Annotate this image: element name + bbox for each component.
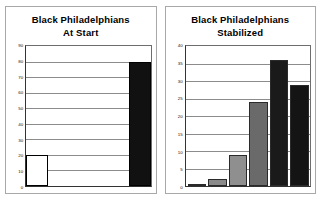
y-tick-label: 40 — [178, 43, 183, 48]
bar-slot — [269, 46, 290, 186]
y-tick-label: 70 — [18, 74, 23, 79]
chart-title-line2: Stabilized — [191, 27, 289, 40]
y-tick-label: 0 — [180, 185, 182, 190]
bars-at-start — [26, 46, 151, 186]
bar — [188, 184, 207, 186]
chart-title-line1: Black Philadelphians — [191, 14, 289, 27]
bar — [208, 179, 227, 186]
bar — [26, 155, 48, 186]
bar — [129, 62, 151, 186]
bar-slot — [228, 46, 249, 186]
bar-slot — [289, 46, 310, 186]
y-tick-label: 80 — [18, 58, 23, 63]
figure-root: Black Philadelphians At Start 0102030405… — [0, 0, 321, 202]
y-tick-label: 5 — [180, 167, 182, 172]
bar — [270, 60, 289, 186]
y-tick-label: 10 — [18, 169, 23, 174]
y-tick-label: 10 — [178, 149, 183, 154]
y-tick-label: 60 — [18, 90, 23, 95]
plot-wrap-at-start: 0102030405060708090 — [10, 45, 152, 187]
y-tick-label: 20 — [178, 114, 183, 119]
y-axis-stabilized: 0510152025303540 — [170, 45, 185, 187]
chart-title-line1: Black Philadelphians — [32, 14, 130, 27]
plot-wrap-stabilized: 0510152025303540 — [170, 45, 312, 187]
bar-slot — [88, 46, 150, 186]
y-tick-label: 90 — [18, 43, 23, 48]
plot-area-stabilized — [185, 45, 312, 187]
bar-slot — [26, 46, 88, 186]
bar-slot — [207, 46, 228, 186]
bar-slot — [187, 46, 208, 186]
chart-panel-stabilized: Black Philadelphians Stabilized 05101520… — [165, 6, 317, 194]
y-tick-label: 40 — [18, 121, 23, 126]
bar — [290, 85, 309, 187]
y-tick-label: 15 — [178, 131, 183, 136]
plot-area-at-start — [25, 45, 152, 187]
bar — [249, 102, 268, 186]
chart-title-stabilized: Black Philadelphians Stabilized — [191, 14, 289, 39]
y-tick-label: 50 — [18, 106, 23, 111]
chart-panel-at-start: Black Philadelphians At Start 0102030405… — [5, 6, 157, 194]
y-tick-label: 35 — [178, 60, 183, 65]
bars-stabilized — [186, 46, 311, 186]
y-tick-label: 25 — [178, 96, 183, 101]
y-tick-label: 20 — [18, 153, 23, 158]
chart-title-line2: At Start — [32, 27, 130, 40]
bar-slot — [248, 46, 269, 186]
chart-title-at-start: Black Philadelphians At Start — [32, 14, 130, 39]
y-axis-at-start: 0102030405060708090 — [10, 45, 25, 187]
y-tick-label: 30 — [178, 78, 183, 83]
y-tick-label: 30 — [18, 137, 23, 142]
y-tick-label: 0 — [21, 185, 23, 190]
bar — [229, 155, 248, 187]
